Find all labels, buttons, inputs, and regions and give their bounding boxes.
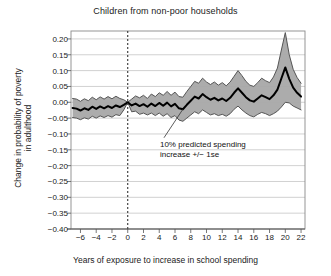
- y-tick-label: −0.20: [48, 161, 68, 170]
- x-tick-label: −4: [92, 233, 101, 242]
- y-tick-label: −0.30: [48, 193, 68, 202]
- chart-root: Children from non-poor households Change…: [0, 0, 331, 276]
- y-tick-label: −0.05: [48, 114, 68, 123]
- x-tick-label: 12: [218, 233, 227, 242]
- x-tick-label: 6: [173, 233, 177, 242]
- y-tick-label: −0.25: [48, 177, 68, 186]
- y-tick-label: −0.40: [48, 225, 68, 234]
- x-tick-label: 20: [281, 233, 290, 242]
- y-tick-label: 0.15: [52, 50, 68, 59]
- annotation-line1: 10% predicted spending: [160, 140, 246, 149]
- x-tick-label: −2: [107, 233, 116, 242]
- x-tick-label: 22: [297, 233, 306, 242]
- annotation-text: 10% predicted spending increase +/− 1se: [160, 140, 246, 160]
- x-tick-label: 14: [234, 233, 243, 242]
- x-tick-label: 18: [265, 233, 274, 242]
- x-tick-label: 16: [249, 233, 258, 242]
- x-tick-label: 8: [189, 233, 193, 242]
- y-tick-label: 0.20: [52, 34, 68, 43]
- x-tick-label: 2: [141, 233, 145, 242]
- x-tick-label: −6: [76, 233, 85, 242]
- y-tick-label: −0.10: [48, 129, 68, 138]
- y-tick-label: 0.05: [52, 82, 68, 91]
- y-tick-label: −0.35: [48, 209, 68, 218]
- y-axis-tick-labels: 0.200.150.100.050.00−0.05−0.10−0.15−0.20…: [0, 0, 68, 276]
- y-tick-label: −0.15: [48, 145, 68, 154]
- y-tick-label: 0.00: [52, 98, 68, 107]
- x-axis-label: Years of exposure to increase in school …: [0, 255, 331, 265]
- plot-background: [71, 31, 305, 229]
- y-tick-label: 0.10: [52, 66, 68, 75]
- x-tick-label: 4: [157, 233, 161, 242]
- x-tick-label: 0: [125, 233, 129, 242]
- x-tick-label: 10: [202, 233, 211, 242]
- annotation-line2: increase +/− 1se: [160, 150, 219, 159]
